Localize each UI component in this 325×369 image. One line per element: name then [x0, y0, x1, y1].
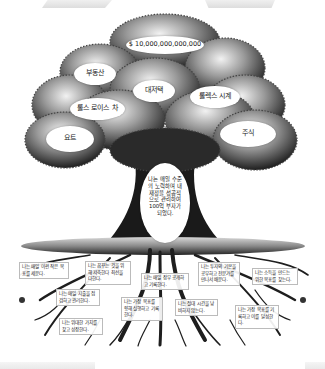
label-mansion: 대저택 — [133, 80, 175, 102]
root-note: 나는 가장 목표를 향해 실행하고 기록한다. — [121, 297, 163, 321]
root-note: 나는 꿈꾸는 것을 위해 저축한다 최선을 다한다. — [85, 261, 131, 285]
label-rolls-royce: 롤스 로이스 차 — [70, 98, 125, 120]
root-note: 나는 매일 이런 작은 목표를 세운다. — [19, 262, 69, 279]
root-note: 나는 가장 목표를 기록하고 이를 달성한다. — [235, 305, 279, 329]
root-knot-left — [19, 297, 25, 303]
root-note: 나는 투자의 기본을 공부하고 전문가를 만나서 배운다. — [198, 262, 240, 286]
root-note: 나는 매일 장부 공개하고 기록한다. — [141, 273, 189, 290]
label-money: $ 10,000,000,000,000 — [126, 36, 204, 54]
trunk-statement: 나는 매일 수준의 노력하며 내 재정을 성공적으로 관리하여 100억 부자가… — [148, 176, 182, 217]
label-yacht: 요트 — [46, 126, 94, 152]
wealth-tree-illustration: 나는 매일 수준의 노력하며 내 재정을 성공적으로 관리하여 100억 부자가… — [0, 0, 325, 369]
label-rolex: 롤렉스 시계 — [190, 86, 240, 108]
root-note: 나는 소득을 만드는 위한 목표를 찾는다. — [252, 268, 298, 285]
root-knot-right — [300, 297, 306, 303]
root-note: 나는 매일 지출을 점검하고 관리한다. — [56, 289, 100, 306]
root-note: 나는 절대 시간을 낭비하지 않는다. — [175, 299, 218, 316]
label-real-estate: 부동산 — [74, 63, 116, 85]
label-stocks: 주식 — [220, 121, 276, 147]
root-note: 나는 위대한 가치를 찾고 성장한다. — [59, 318, 103, 335]
